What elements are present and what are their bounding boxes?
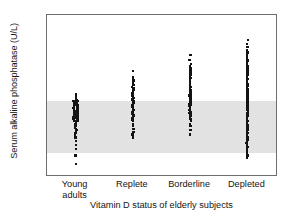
y-axis-title: Serum alkaline phosphatase (U/L) <box>9 6 19 176</box>
data-point <box>132 82 134 84</box>
data-point <box>189 54 191 56</box>
y-axis-tick-label: 12.5 <box>46 170 47 176</box>
data-point <box>132 70 134 72</box>
data-point <box>75 163 77 165</box>
data-point <box>246 43 248 45</box>
data-point <box>132 136 134 138</box>
data-point <box>189 133 191 135</box>
data-point <box>74 133 76 135</box>
y-axis-tick-mark <box>46 175 47 176</box>
plot-area: 12.52550100200400 <box>46 14 277 176</box>
data-point <box>188 59 190 61</box>
data-point <box>189 77 191 79</box>
data-point <box>131 133 133 135</box>
y-axis-tick-mark <box>46 47 47 48</box>
y-axis-tick-mark <box>46 15 47 16</box>
reference-range-band <box>47 101 276 153</box>
data-point <box>246 46 248 48</box>
data-point <box>75 140 77 142</box>
data-point <box>132 128 134 130</box>
scatter-plot-figure: Serum alkaline phosphatase (U/L) 12.5255… <box>0 0 287 220</box>
data-point <box>245 142 247 144</box>
data-point <box>75 148 77 150</box>
data-point <box>132 76 134 78</box>
y-axis-tick-mark <box>46 111 47 112</box>
data-point <box>74 154 76 156</box>
data-point <box>247 39 249 41</box>
data-point <box>75 128 77 130</box>
data-point <box>246 128 248 130</box>
y-axis-tick-mark <box>46 79 47 80</box>
y-axis-tick-mark <box>46 143 47 144</box>
x-axis-title: Vitamin D status of elderly subjects <box>46 200 277 210</box>
data-point <box>189 125 191 127</box>
x-axis-group-label-4: Depleted <box>206 179 286 190</box>
data-point <box>75 144 77 146</box>
data-point <box>74 136 76 138</box>
data-point <box>246 157 248 159</box>
data-point <box>189 129 191 131</box>
